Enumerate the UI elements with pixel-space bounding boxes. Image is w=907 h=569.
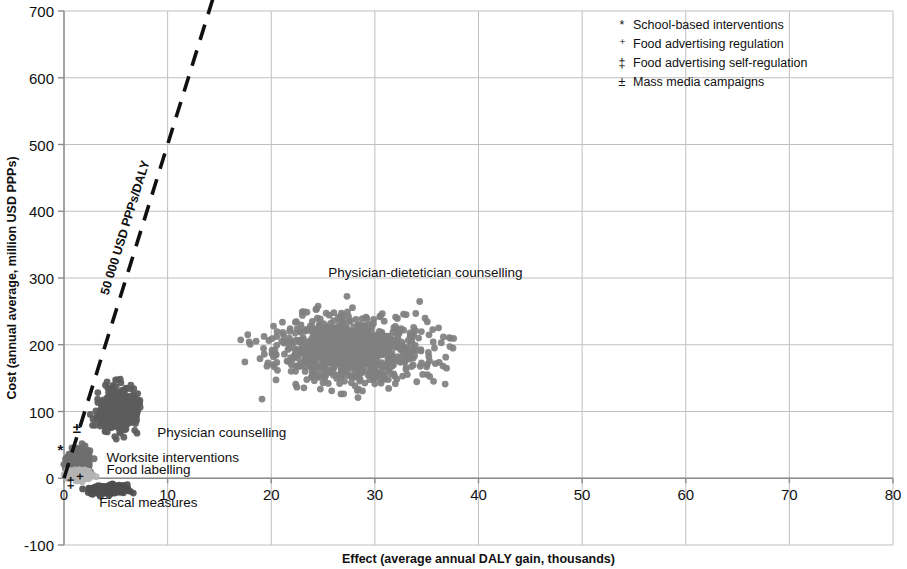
y-tick-label: 400: [29, 203, 54, 220]
cluster-label: Fiscal measures: [99, 495, 198, 510]
legend-item: ‡Food advertising self-regulation: [619, 56, 808, 70]
chart-canvas: 50 000 USD PPPs/DALY -100010020030040050…: [0, 0, 907, 569]
legend-item: ⁺Food advertising regulation: [619, 37, 784, 51]
cluster-labels: Physician-dietetician counsellingPhysici…: [99, 265, 522, 510]
legend-label: Food advertising regulation: [633, 37, 784, 51]
legend-item: *School-based interventions: [620, 18, 784, 32]
x-axis-title: Effect (average annual DALY gain, thousa…: [342, 552, 615, 566]
legend: *School-based interventions⁺Food adverti…: [619, 18, 808, 89]
marker-food-advertising-regulation: ⁺: [76, 470, 84, 487]
y-tick-label: 100: [29, 404, 54, 421]
cluster-physician-dietetician-counselling: [237, 293, 457, 402]
y-tick-label: -100: [24, 537, 54, 554]
cluster-label: Food labelling: [106, 462, 190, 477]
legend-glyph: ‡: [619, 56, 626, 70]
threshold-line-label: 50 000 USD PPPs/DALY: [98, 158, 153, 296]
marker-food-advertising-self-regulation: ‡: [67, 474, 75, 491]
x-tick-label: 80: [885, 486, 902, 503]
cluster-label: Physician-dietetician counselling: [328, 265, 522, 280]
cluster-physician-counselling: [87, 376, 144, 443]
x-tick-label: 60: [677, 486, 694, 503]
x-tick-label: 20: [263, 486, 280, 503]
y-tick-label: 0: [46, 470, 54, 487]
y-tick-label: 300: [29, 270, 54, 287]
y-tick-label: 200: [29, 337, 54, 354]
y-tick-label: 600: [29, 70, 54, 87]
x-tick-label: 70: [781, 486, 798, 503]
legend-label: Mass media campaigns: [633, 75, 764, 89]
cluster-label: Physician counselling: [157, 425, 286, 440]
scatter-chart: 50 000 USD PPPs/DALY -100010020030040050…: [0, 0, 907, 569]
marker-mass-media-campaigns: ±: [73, 419, 81, 436]
y-tick-label: 500: [29, 137, 54, 154]
legend-label: School-based interventions: [633, 18, 784, 32]
y-tick-label: 700: [29, 3, 54, 20]
legend-glyph: ⁺: [619, 37, 626, 51]
x-tick-label: 30: [367, 486, 384, 503]
marker-school-based-interventions: *: [57, 441, 63, 458]
x-tick-label: 40: [470, 486, 487, 503]
x-tick-label: 50: [574, 486, 591, 503]
legend-label: Food advertising self-regulation: [633, 56, 807, 70]
legend-item: ±Mass media campaigns: [619, 75, 765, 89]
legend-glyph: ±: [619, 75, 626, 89]
y-axis-title: Cost (annual average, million USD PPPs): [5, 156, 19, 399]
legend-glyph: *: [620, 18, 625, 32]
